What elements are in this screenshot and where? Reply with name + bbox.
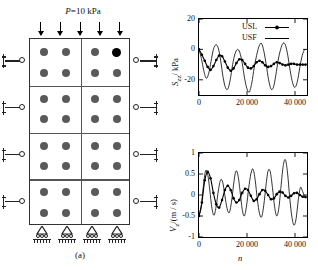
pin-roller-support-bottom xyxy=(33,226,51,242)
series-marker-usl xyxy=(215,59,218,62)
support-hatch xyxy=(59,240,60,243)
y-tick-label: -0.5 xyxy=(160,211,195,220)
legend-sample-usf xyxy=(264,34,290,43)
series-marker-usl xyxy=(232,197,235,200)
node-dot xyxy=(91,188,99,196)
roller-support-right xyxy=(131,101,159,115)
node-dot xyxy=(113,162,121,170)
support-hatch xyxy=(99,240,100,243)
support-tick xyxy=(154,65,158,66)
support-hatch xyxy=(40,240,41,243)
node-dot xyxy=(113,69,121,77)
node-dot xyxy=(40,162,48,170)
support-tick xyxy=(154,112,158,113)
support-tick xyxy=(2,197,6,198)
support-tick xyxy=(2,56,6,57)
support-tick xyxy=(2,206,6,207)
load-value: =10 kPa xyxy=(71,6,101,16)
support-tick xyxy=(154,56,158,57)
mesh-grid xyxy=(29,38,130,225)
mesh-line-horizontal xyxy=(30,86,129,88)
series-marker-usl xyxy=(281,63,284,66)
series-marker-usl xyxy=(252,200,255,203)
node-dot xyxy=(62,188,70,196)
support-tick xyxy=(154,206,158,207)
series-marker-usl xyxy=(250,195,253,198)
support-roller-ball xyxy=(44,234,48,238)
node-dot xyxy=(62,209,70,217)
support-hatch xyxy=(34,240,35,243)
support-hatch xyxy=(46,240,47,243)
support-rod xyxy=(140,201,156,202)
y-tick-label: -20 xyxy=(160,75,195,84)
support-hatch xyxy=(74,240,75,243)
node-dot xyxy=(40,142,48,150)
support-hatch xyxy=(109,240,110,243)
support-roller xyxy=(133,151,139,157)
node-dot xyxy=(40,48,48,56)
load-arrow xyxy=(99,22,100,35)
support-hatch xyxy=(87,240,88,243)
roller-support-left xyxy=(2,101,30,115)
node-dot xyxy=(62,162,70,170)
plot-curves-c xyxy=(199,153,307,237)
series-marker-usl xyxy=(241,192,244,195)
node-dot xyxy=(62,69,70,77)
node-dot-highlighted xyxy=(112,48,121,57)
support-hatch xyxy=(93,240,94,243)
roller-support-right xyxy=(131,54,159,68)
series-line-usf xyxy=(199,159,305,225)
series-marker-usl xyxy=(212,65,215,68)
node-dot xyxy=(113,95,121,103)
legend-label-usl: USL xyxy=(242,22,257,31)
series-marker-usl xyxy=(244,187,247,190)
series-marker-usl xyxy=(304,63,307,66)
y-tick-label: 0 xyxy=(160,190,195,199)
series-marker-usl xyxy=(296,192,299,195)
support-tick xyxy=(154,103,158,104)
series-marker-usl xyxy=(293,192,296,195)
support-hatch xyxy=(115,240,116,243)
y-tick-label: 0 xyxy=(160,44,195,53)
series-marker-usl xyxy=(235,201,238,204)
pin-roller-support-bottom xyxy=(108,226,126,242)
support-rod xyxy=(140,107,156,108)
load-arrow xyxy=(80,22,81,35)
node-dot xyxy=(91,69,99,77)
support-hatch xyxy=(62,240,63,243)
support-tick xyxy=(154,159,158,160)
series-marker-usl xyxy=(290,195,293,198)
x-tick-label: 0 xyxy=(181,240,217,249)
series-marker-usl xyxy=(278,62,281,65)
x-tick-label: 40 000 xyxy=(277,240,313,249)
load-arrow xyxy=(119,22,120,35)
series-marker-usl xyxy=(227,66,230,69)
x-tick-label: 40 000 xyxy=(277,98,313,107)
series-marker-usl xyxy=(290,63,293,66)
node-dot xyxy=(62,115,70,123)
node-dot xyxy=(62,48,70,56)
node-dot xyxy=(40,69,48,77)
series-marker-usl xyxy=(221,55,224,58)
series-marker-usl xyxy=(212,192,215,195)
series-marker-usl xyxy=(206,66,209,69)
legend-label-usf: USF xyxy=(242,33,257,42)
series-marker-usl xyxy=(270,65,273,68)
support-hatch xyxy=(112,240,113,243)
support-hatch xyxy=(43,240,44,243)
series-marker-usl xyxy=(258,193,261,196)
support-roller xyxy=(19,57,25,63)
support-roller-ball xyxy=(119,234,123,238)
series-marker-usl xyxy=(293,63,296,66)
x-axis-label-c-text: n xyxy=(238,253,242,263)
node-dot xyxy=(113,209,121,217)
support-hatch xyxy=(49,240,50,243)
series-marker-usl xyxy=(258,60,261,63)
series-marker-usl xyxy=(221,199,224,202)
series-marker-usl xyxy=(261,189,264,192)
node-dot xyxy=(91,209,99,217)
mesh-line-horizontal xyxy=(30,179,129,181)
x-axis-label-c: n xyxy=(233,253,247,263)
support-hatch xyxy=(84,240,85,243)
support-tick xyxy=(154,197,158,198)
